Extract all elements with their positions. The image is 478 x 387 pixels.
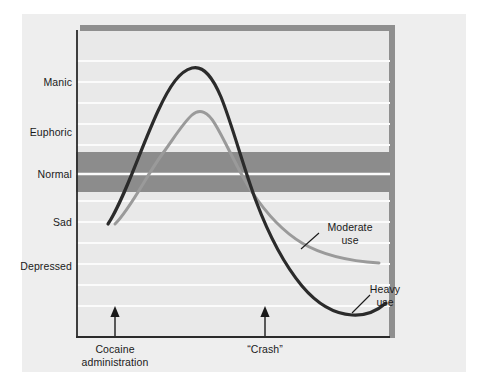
cocaine-administration-label-line2: administration [82, 356, 149, 368]
plot-frame-top-shadow [80, 25, 395, 31]
figure-root: Manic Euphoric Normal Sad Depressed Coca… [0, 0, 478, 387]
y-tick-label-manic: Manic [32, 76, 72, 88]
crash-label: “Crash” [247, 343, 283, 355]
cocaine-administration-label-line1: Cocaine [95, 343, 134, 355]
y-tick-label-depressed: Depressed [10, 260, 72, 272]
y-tick-label-euphoric: Euphoric [22, 126, 72, 138]
y-tick-label-sad: Sad [32, 216, 72, 228]
moderate-use-annotation-line1: Moderate [319, 221, 381, 233]
y-tick-label-normal: Normal [22, 168, 72, 180]
heavy-use-annotation-line2: use [362, 296, 408, 308]
chart-canvas [0, 0, 478, 387]
moderate-use-annotation-line2: use [319, 234, 381, 246]
heavy-use-annotation-line1: Heavy [362, 283, 408, 295]
